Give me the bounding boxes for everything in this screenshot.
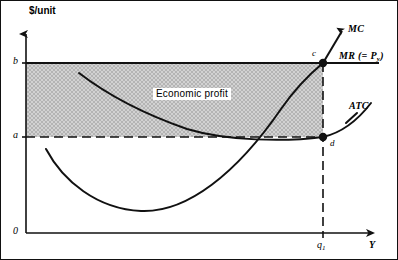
x-axis-title: Y bbox=[369, 240, 375, 250]
atc-curve-label: ATC bbox=[349, 101, 369, 111]
x-tick-label-q1-sub: 1 bbox=[322, 244, 326, 252]
mr-curve-label-paren: (= P bbox=[358, 50, 377, 61]
y-tick-label-b: b bbox=[13, 56, 18, 66]
point-c-label: c bbox=[312, 49, 316, 58]
origin-label: 0 bbox=[13, 226, 18, 236]
economics-diagram: $/unit b a 0 q1 Y MC MR (= Py) ATC c d E… bbox=[0, 0, 398, 260]
economic-profit-region bbox=[26, 63, 323, 137]
y-axis-title: $/unit bbox=[29, 6, 56, 16]
point-d-marker bbox=[319, 133, 327, 141]
diagram-canvas bbox=[1, 1, 398, 260]
atc-leader-line bbox=[346, 113, 357, 123]
x-tick-label-q1: q1 bbox=[317, 240, 326, 252]
mr-curve-label: MR (= Py) bbox=[339, 51, 384, 63]
mr-curve-label-text: MR bbox=[339, 50, 355, 61]
mc-curve-label: MC bbox=[348, 24, 364, 34]
economic-profit-label: Economic profit bbox=[153, 88, 231, 100]
point-c-marker bbox=[319, 59, 327, 67]
mr-curve-label-paren-end: ) bbox=[380, 50, 384, 61]
point-d-label: d bbox=[330, 139, 335, 148]
y-tick-label-a: a bbox=[13, 130, 18, 140]
